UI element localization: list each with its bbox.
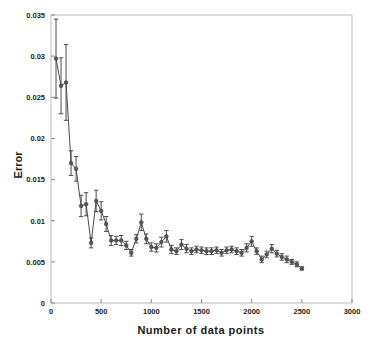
data-point-marker xyxy=(245,246,249,250)
data-point-marker xyxy=(109,239,113,243)
x-tick-label: 1000 xyxy=(143,307,160,316)
y-tick-label: 0.02 xyxy=(30,134,45,143)
data-point-marker xyxy=(124,244,128,248)
data-point-marker xyxy=(175,249,179,253)
data-point-marker xyxy=(119,239,123,243)
data-point-marker xyxy=(300,267,304,271)
data-point-marker xyxy=(159,240,163,244)
data-point-marker xyxy=(69,161,73,165)
data-point-marker xyxy=(230,248,234,252)
data-point-marker xyxy=(220,251,224,255)
data-point-marker xyxy=(64,81,68,85)
x-tick-label: 0 xyxy=(49,307,53,316)
data-point-marker xyxy=(74,167,78,171)
data-point-marker xyxy=(280,255,284,259)
data-point-marker xyxy=(59,84,63,88)
y-tick-label: 0.025 xyxy=(26,93,45,102)
data-point-marker xyxy=(185,247,189,251)
error-vs-data-points-chart: 00.0050.010.0150.020.0250.030.035 050010… xyxy=(0,0,374,346)
data-point-marker xyxy=(84,202,88,206)
x-tick-label: 1500 xyxy=(193,307,210,316)
y-tick-label: 0.03 xyxy=(30,52,45,61)
data-point-marker xyxy=(149,245,153,249)
data-point-marker xyxy=(99,209,103,213)
data-point-marker xyxy=(240,251,244,255)
y-tick-label: 0 xyxy=(41,299,45,308)
data-point-marker xyxy=(180,243,184,247)
x-tick-label: 500 xyxy=(95,307,108,316)
data-point-marker xyxy=(195,248,199,252)
data-point-marker xyxy=(225,248,229,252)
data-point-marker xyxy=(295,262,299,266)
data-point-marker xyxy=(290,260,294,264)
x-tick-label: 2500 xyxy=(293,307,310,316)
data-point-marker xyxy=(275,252,279,256)
data-point-marker xyxy=(164,234,168,238)
data-point-marker xyxy=(210,249,214,253)
data-point-marker xyxy=(250,239,254,243)
data-point-marker xyxy=(139,220,143,224)
x-tick-label: 2000 xyxy=(243,307,260,316)
y-tick-label: 0.035 xyxy=(26,11,45,20)
data-point-marker xyxy=(114,239,118,243)
data-point-marker xyxy=(260,257,264,261)
data-point-marker xyxy=(144,237,148,241)
data-point-marker xyxy=(104,222,108,226)
y-tick-label: 0.005 xyxy=(26,258,45,267)
data-point-marker xyxy=(270,247,274,251)
data-point-marker xyxy=(200,248,204,252)
data-point-marker xyxy=(129,251,133,255)
data-point-marker xyxy=(265,253,269,257)
chart-canvas: 00.0050.010.0150.020.0250.030.035 050010… xyxy=(0,0,374,346)
data-point-marker xyxy=(235,249,239,253)
data-point-marker xyxy=(94,199,98,203)
data-point-marker xyxy=(89,241,93,245)
y-tick-label: 0.01 xyxy=(30,217,45,226)
x-axis-label: Number of data points xyxy=(137,324,264,336)
data-point-marker xyxy=(255,249,259,253)
data-point-marker xyxy=(134,237,138,241)
data-point-marker xyxy=(54,57,58,61)
data-point-marker xyxy=(79,204,83,208)
data-point-marker xyxy=(170,248,174,252)
y-tick-label: 0.015 xyxy=(26,175,45,184)
y-axis-label: Error xyxy=(12,151,24,179)
data-point-marker xyxy=(285,257,289,261)
data-point-marker xyxy=(215,248,219,252)
x-tick-label: 3000 xyxy=(344,307,361,316)
data-point-marker xyxy=(190,249,194,253)
data-point-marker xyxy=(205,249,209,253)
data-point-marker xyxy=(154,246,158,250)
